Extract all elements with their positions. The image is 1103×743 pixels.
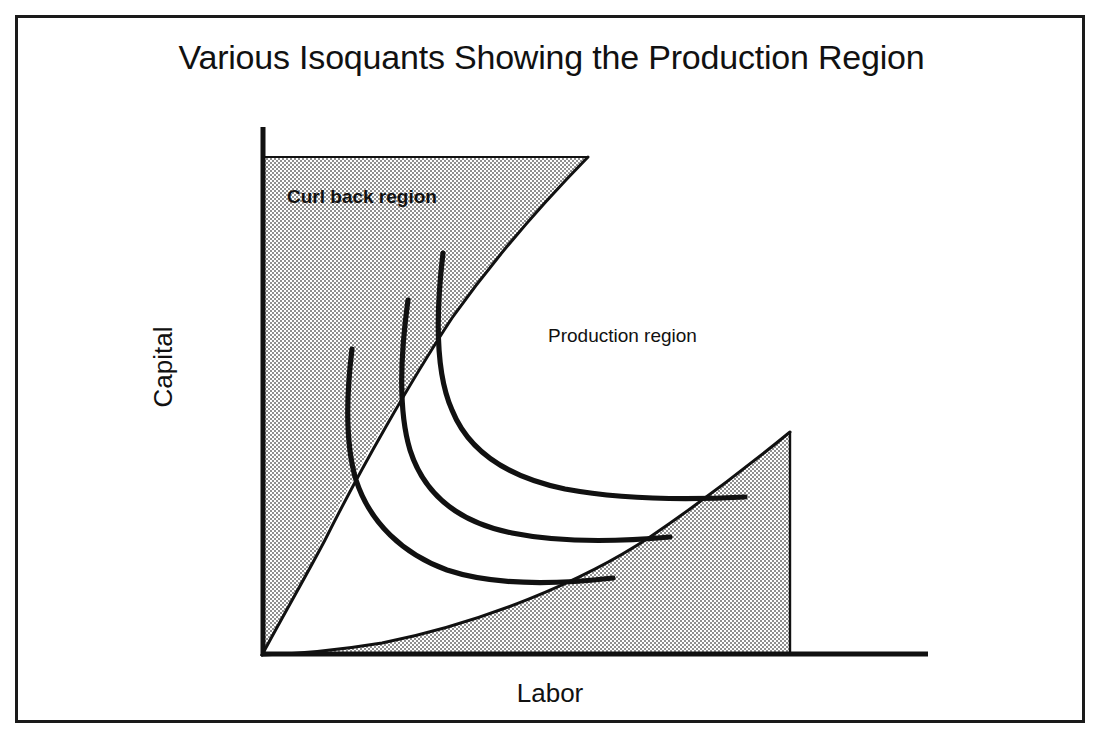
curl-back-region-label: Curl back region — [287, 186, 437, 208]
figure-root: Various Isoquants Showing the Production… — [0, 0, 1103, 743]
x-axis-label: Labor — [430, 678, 670, 709]
production-region-label: Production region — [548, 325, 697, 347]
curl-back-region-upper-shading — [262, 150, 602, 665]
y-axis-label: Capital — [148, 302, 179, 432]
isoquant-curve-3 — [438, 253, 745, 499]
